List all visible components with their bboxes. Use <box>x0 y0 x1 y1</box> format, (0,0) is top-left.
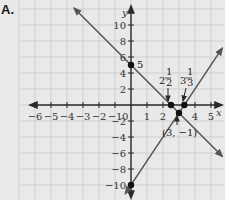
label-3-third-den: 3 <box>187 77 193 88</box>
origin-label: 0 <box>122 111 128 122</box>
data-point <box>168 102 174 108</box>
x-tick-label: 4 <box>192 111 198 122</box>
y-tick-label: −10 <box>105 180 126 191</box>
y-tick-label: 8 <box>120 36 126 47</box>
label-3-third-whole: 3 <box>180 75 186 86</box>
data-point <box>181 102 187 108</box>
chart: −6−5−4−3−2−11245108642−2−4−6−8−10 0 x y … <box>0 0 225 200</box>
x-tick-label: −5 <box>44 111 59 122</box>
y-tick-label: 2 <box>120 84 126 95</box>
data-point <box>176 110 182 116</box>
x-tick-label: −4 <box>60 111 75 122</box>
lines <box>74 8 222 193</box>
y-tick-label: −8 <box>111 164 126 175</box>
label-2-half-whole: 2 <box>159 75 165 86</box>
x-tick-label: −2 <box>92 111 107 122</box>
data-point <box>128 62 134 68</box>
x-axis-label: x <box>216 107 222 118</box>
y-tick-label: −6 <box>111 148 126 159</box>
y-tick-label: 4 <box>120 68 126 79</box>
x-tick-label: −6 <box>28 111 43 122</box>
label-2-half-den: 2 <box>166 77 172 88</box>
y-axis-label: y <box>121 7 128 18</box>
data-point <box>128 182 134 188</box>
x-tick-label: 1 <box>144 111 150 122</box>
x-tick-label: −3 <box>76 111 91 122</box>
intersection-label: (3, −1) <box>162 127 197 138</box>
arrow-3-third <box>183 88 186 101</box>
label-3-third-num: 1 <box>187 66 193 77</box>
y-intercept-label: 5 <box>137 59 143 70</box>
y-tick-label: 10 <box>113 20 126 31</box>
x-tick-label: 2 <box>160 111 166 122</box>
label-2-half-num: 1 <box>166 66 172 77</box>
y-tick-label: −4 <box>111 132 126 143</box>
x-tick-label: 5 <box>208 111 214 122</box>
